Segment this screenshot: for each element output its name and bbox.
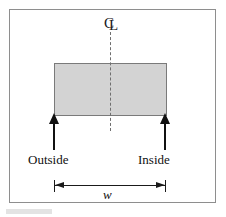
centerline-dash-dot	[110, 32, 111, 131]
figure-container: C L Outside Inside w	[0, 0, 226, 217]
inside-label: Inside	[138, 152, 170, 168]
dimension-rule	[54, 185, 166, 186]
arrow-shaft	[164, 122, 166, 150]
width-label: w	[103, 187, 112, 203]
inside-load-arrow-icon	[160, 113, 171, 150]
dimension-tick-right	[165, 180, 166, 192]
arrow-shaft	[53, 122, 55, 150]
dimension-arrow-left-icon	[55, 182, 64, 188]
dimension-arrow-right-icon	[156, 182, 165, 188]
centerline-symbol: C L	[101, 13, 123, 33]
centerline-l-glyph: L	[109, 15, 118, 35]
outside-label: Outside	[28, 152, 68, 168]
caption-fragment	[6, 209, 52, 214]
outside-load-arrow-icon	[49, 113, 60, 150]
